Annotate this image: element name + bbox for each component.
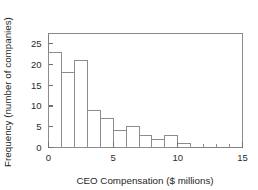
histogram-bar	[61, 73, 74, 148]
y-tick-label: 25	[31, 38, 42, 49]
histogram-bar	[113, 131, 126, 148]
histogram-bar	[74, 60, 87, 147]
histogram-figure: 051015 0510152025 CEO Compensation ($ mi…	[0, 0, 258, 190]
y-tick-label: 15	[31, 80, 42, 91]
y-tick-label: 20	[31, 59, 42, 70]
histogram-bar	[49, 52, 62, 147]
x-tick-label: 5	[111, 152, 116, 163]
x-tick-label: 15	[237, 152, 248, 163]
x-tick-label: 0	[46, 152, 51, 163]
histogram-bar	[178, 143, 191, 147]
y-tick-label: 0	[36, 142, 41, 153]
ceo-compensation-histogram: 051015 0510152025 CEO Compensation ($ mi…	[0, 0, 258, 190]
y-tick-label: 10	[31, 100, 42, 111]
y-tick-label: 5	[36, 121, 41, 132]
histogram-bar	[87, 110, 100, 147]
histogram-bar	[100, 118, 113, 147]
histogram-bar	[126, 127, 139, 148]
y-axis-title: Frequency (number of companies)	[2, 17, 13, 167]
histogram-bar	[165, 135, 178, 147]
histogram-bar	[139, 135, 152, 147]
histogram-bar	[152, 139, 165, 147]
figure-background	[0, 0, 258, 190]
x-axis-title: CEO Compensation ($ millions)	[76, 175, 213, 186]
x-tick-label: 10	[173, 152, 184, 163]
